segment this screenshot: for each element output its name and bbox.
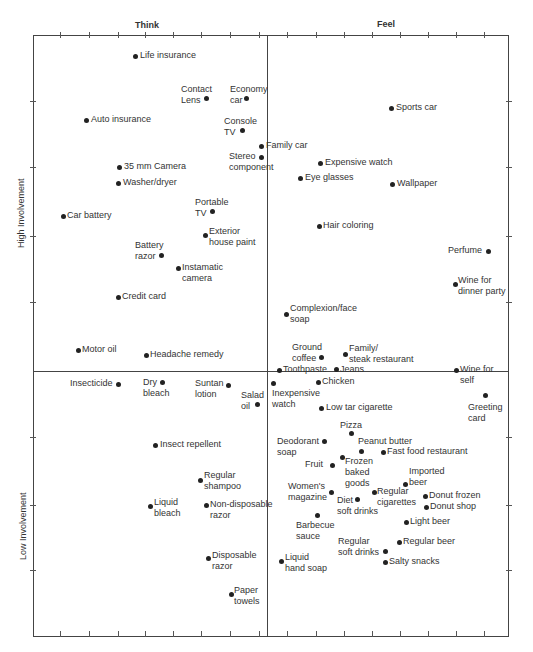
data-point-label: Exterior house paint: [209, 226, 256, 248]
data-point: [381, 450, 386, 455]
data-point: [316, 380, 321, 385]
data-point: [116, 382, 121, 387]
data-point-label: Insecticide: [70, 378, 113, 389]
axis-label-high-involvement: High Involvement: [16, 178, 26, 248]
data-point-label: Car battery: [67, 210, 112, 221]
x-tick: [287, 32, 288, 38]
data-point: [284, 312, 289, 317]
data-point-label: Donut shop: [430, 501, 476, 512]
data-point-label: Wine for dinner party: [458, 275, 506, 297]
data-point-label: Salty snacks: [389, 556, 440, 567]
y-tick: [30, 236, 36, 237]
data-point: [404, 520, 409, 525]
x-tick: [173, 631, 174, 637]
data-point: [330, 463, 335, 468]
x-tick: [287, 631, 288, 637]
x-tick: [230, 32, 231, 38]
x-tick: [428, 32, 429, 38]
data-point: [279, 559, 284, 564]
data-point-label: Suntan lotion: [195, 378, 224, 400]
data-point-label: Life insurance: [140, 50, 196, 61]
y-tick: [506, 302, 512, 303]
data-point-label: Contact Lens: [181, 84, 212, 106]
data-point-label: Complexion/face soap: [290, 303, 357, 325]
data-point-label: Low tar cigarette: [326, 402, 393, 413]
y-tick: [506, 167, 512, 168]
data-point-label: Liquid hand soap: [285, 552, 327, 574]
data-point-label: Family/ steak restaurant: [349, 343, 414, 365]
data-point-label: Expensive watch: [325, 157, 393, 168]
y-tick: [30, 302, 36, 303]
data-point-label: Donut frozen: [429, 490, 481, 501]
data-point-label: Light beer: [410, 516, 450, 527]
data-point-label: Economy car: [230, 84, 268, 106]
data-point-label: Motor oil: [82, 344, 117, 355]
x-tick: [201, 631, 202, 637]
data-point-label: Disposable razor: [212, 550, 257, 572]
y-tick: [506, 236, 512, 237]
y-tick: [506, 437, 512, 438]
data-point-label: Perfume: [448, 245, 482, 256]
data-point-label: Sports car: [396, 102, 437, 113]
x-tick: [372, 32, 373, 38]
data-point: [148, 504, 153, 509]
data-point-label: Barbecue sauce: [296, 520, 335, 542]
data-point: [229, 592, 234, 597]
data-point: [259, 144, 264, 149]
data-point: [322, 439, 327, 444]
data-point-label: Regular beer: [403, 536, 455, 547]
x-tick: [400, 32, 401, 38]
data-point: [343, 352, 348, 357]
x-tick: [484, 32, 485, 38]
data-point-label: Diet soft drinks: [337, 495, 378, 517]
data-point: [144, 353, 149, 358]
y-tick: [30, 437, 36, 438]
data-point: [116, 295, 121, 300]
data-point-label: Fruit: [305, 459, 323, 470]
x-tick: [428, 631, 429, 637]
data-point: [317, 224, 322, 229]
x-tick: [372, 631, 373, 637]
data-point: [206, 556, 211, 561]
data-point: [383, 560, 388, 565]
data-point-label: Toothpaste: [283, 364, 327, 375]
data-point: [383, 549, 388, 554]
y-tick: [506, 505, 512, 506]
data-point: [176, 266, 181, 271]
data-point: [315, 513, 320, 518]
data-point: [423, 494, 428, 499]
data-point: [318, 161, 323, 166]
data-point-label: Hair coloring: [323, 220, 374, 231]
data-point: [153, 443, 158, 448]
data-point-label: Women's magazine: [288, 481, 327, 503]
y-tick: [30, 167, 36, 168]
x-tick: [145, 32, 146, 38]
data-point: [319, 406, 324, 411]
data-point: [329, 490, 334, 495]
data-point-label: Insect repellent: [160, 439, 221, 450]
data-point-label: Deodorant soap: [277, 436, 319, 458]
data-point-label: Washer/dryer: [123, 177, 177, 188]
data-point: [372, 490, 377, 495]
data-point-label: Regular shampoo: [204, 470, 241, 492]
data-point: [389, 106, 394, 111]
data-point-label: Non-disposable razor: [210, 499, 273, 521]
x-tick: [316, 631, 317, 637]
data-point-label: Family car: [266, 140, 308, 151]
data-point-label: Chicken: [322, 376, 355, 387]
axis-label-feel: Feel: [377, 19, 395, 29]
data-point-label: Imported beer: [409, 466, 445, 488]
x-tick: [89, 32, 90, 38]
data-point-label: Paper towels: [234, 585, 260, 607]
x-tick: [173, 32, 174, 38]
data-point: [397, 540, 402, 545]
data-point-label: Liquid bleach: [154, 497, 181, 519]
data-point-label: 35 mm Camera: [124, 161, 186, 172]
x-tick: [145, 631, 146, 637]
data-point: [390, 182, 395, 187]
data-point: [359, 449, 364, 454]
data-point: [277, 368, 282, 373]
x-tick: [259, 32, 260, 38]
data-point: [298, 176, 303, 181]
x-tick: [344, 631, 345, 637]
